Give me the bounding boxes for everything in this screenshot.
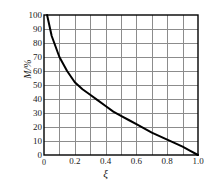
x-axis-tick-labels: 00.20.40.60.81.0 — [0, 0, 211, 189]
x-tick-label: 0.6 — [121, 156, 151, 166]
x-tick-label: 0.8 — [152, 156, 182, 166]
x-tick-label: 0 — [29, 158, 59, 167]
x-axis-label: ξ — [0, 167, 211, 179]
chart-figure: 0102030405060708090100 00.20.40.60.81.0 … — [0, 0, 211, 189]
x-tick-label: 1.0 — [183, 156, 211, 166]
y-axis-label: M/% — [22, 46, 36, 92]
x-tick-label: 0.4 — [91, 156, 121, 166]
x-tick-label: 0.2 — [60, 156, 90, 166]
